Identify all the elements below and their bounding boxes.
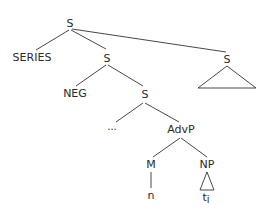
node-m: M [146, 158, 156, 171]
edge-advp-np [181, 138, 207, 157]
node-advp: AdvP [167, 123, 195, 136]
tree-edges [36, 29, 226, 188]
edge-root-s-right [72, 29, 226, 52]
edge-s2-s3 [108, 65, 143, 86]
trace-subscript: i [207, 194, 210, 205]
syntax-tree: S SERIES S S NEG S ... AdvP M NP n ti [0, 0, 268, 211]
node-neg: NEG [63, 87, 87, 100]
triangle-np [200, 172, 214, 190]
edge-s2-neg [76, 65, 106, 86]
node-s3: S [142, 88, 149, 101]
edge-s3-advp [145, 103, 179, 122]
triangle-s-right [198, 66, 256, 88]
node-ellipsis: ... [107, 121, 117, 132]
node-series: SERIES [13, 51, 52, 64]
edge-s3-ellipsis [116, 103, 143, 122]
node-root-s: S [67, 17, 74, 30]
edge-advp-m [153, 138, 180, 157]
node-n: n [148, 189, 155, 202]
node-s2: S [104, 52, 111, 65]
node-np: NP [200, 158, 215, 171]
node-s-right: S [224, 53, 231, 66]
node-trace: ti [202, 191, 209, 205]
edge-root-series [36, 30, 69, 50]
